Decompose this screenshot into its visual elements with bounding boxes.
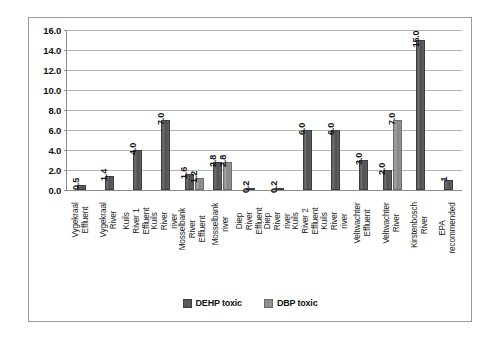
- bar: 2.8: [223, 162, 232, 190]
- bar-group: 1: [435, 30, 463, 190]
- y-axis-tick-label: 2.0: [48, 165, 61, 176]
- y-axis: 0.02.04.06.08.010.012.014.016.0: [29, 30, 64, 190]
- bar: 0.2: [246, 188, 255, 190]
- bar: 15.0: [416, 40, 425, 190]
- bar-value-label: 15.0: [411, 31, 421, 48]
- bar-value-label: 1.4: [99, 169, 109, 181]
- bar-value-label: 0.5: [71, 178, 81, 190]
- y-axis-tick-label: 8.0: [48, 105, 61, 116]
- bar-group: 0.5: [67, 30, 95, 190]
- bar-group: 2.82.8: [208, 30, 236, 190]
- bar-group: 0.2: [237, 30, 265, 190]
- bar: 3.0: [359, 160, 368, 190]
- bar-series-container: 0.51.44.07.01.61.22.82.80.20.26.06.03.02…: [67, 30, 462, 190]
- bar-group: 2.07.0: [378, 30, 406, 190]
- bar-group: 15.0: [406, 30, 434, 190]
- bar-group: 4.0: [124, 30, 152, 190]
- x-axis-tick-label: Mosselbank river: [207, 192, 235, 288]
- x-axis-tick-text: Kuils River river: [320, 207, 350, 235]
- x-axis-tick-label: Veltwachter River: [377, 192, 405, 288]
- x-axis-tick-text: Vygekraal River: [98, 202, 118, 237]
- bar-group: 1.61.2: [180, 30, 208, 190]
- y-axis-tick-label: 14.0: [43, 45, 61, 56]
- plot-area: 0.51.44.07.01.61.22.82.80.20.26.06.03.02…: [66, 30, 462, 190]
- bar: 1: [444, 180, 453, 190]
- x-axis-tick-label: Kuils River river: [321, 192, 349, 288]
- x-axis-tick-label: Kuils River 2 Effluent: [292, 192, 320, 288]
- bar: 7.0: [393, 120, 402, 190]
- bar: 7.0: [161, 120, 170, 190]
- gridline: [67, 190, 462, 191]
- y-axis-tick-label: 16.0: [43, 25, 61, 36]
- legend-swatch: [183, 299, 192, 308]
- x-axis-tick-text: Vygekraal Effluent: [70, 202, 90, 237]
- bar-group: 0.2: [265, 30, 293, 190]
- x-axis-tick-label: Kuils River river: [151, 192, 179, 288]
- x-axis-tick-label: Kuils River 1 Effluent: [123, 192, 151, 288]
- bar-value-label: 6.0: [297, 123, 307, 135]
- bar: 0.2: [275, 188, 284, 190]
- x-axis-tick-text: EPA recommended: [438, 202, 458, 253]
- bar-value-label: 1.2: [189, 171, 199, 183]
- y-axis-tick-label: 6.0: [48, 125, 61, 136]
- bar-value-label: 2.8: [208, 155, 218, 167]
- y-axis-tick-label: 10.0: [43, 85, 61, 96]
- x-axis-tick-text: Diep River Effluent: [235, 207, 265, 235]
- x-axis-tick-label: Vygekraal Effluent: [66, 192, 94, 288]
- bar: 6.0: [303, 130, 312, 190]
- bar-group: 6.0: [322, 30, 350, 190]
- x-axis-tick-label: Kirstenbosch River: [405, 192, 433, 288]
- x-axis-tick-label: Diep River river: [264, 192, 292, 288]
- bar: 1.2: [195, 178, 204, 190]
- x-axis-labels: Vygekraal EffluentVygekraal RiverKuils R…: [66, 192, 462, 288]
- chart-legend: DEHP toxicDBP toxic: [29, 298, 471, 308]
- bar-value-label: 1: [439, 177, 449, 182]
- x-axis-tick-label: Diep River Effluent: [236, 192, 264, 288]
- x-axis-tick-text: Kuils River 1 Effluent: [122, 207, 152, 235]
- bar: 6.0: [331, 130, 340, 190]
- bar: 2.0: [383, 170, 392, 190]
- bar: 1.4: [105, 176, 114, 190]
- bar-value-label: 6.0: [326, 123, 336, 135]
- bar-value-label: 7.0: [156, 113, 166, 125]
- chart-figure: 0.02.04.06.08.010.012.014.016.0 0.51.44.…: [28, 17, 472, 322]
- x-axis-tick-text: Veltwachter Effluent: [353, 202, 373, 243]
- y-axis-tick-label: 0.0: [48, 185, 61, 196]
- bar-value-label: 2.0: [377, 163, 387, 175]
- bar-value-label: 2.8: [218, 155, 228, 167]
- legend-item: DBP toxic: [264, 298, 318, 308]
- bar-value-label: 1.6: [179, 167, 189, 179]
- x-axis-tick-text: Veltwachter River: [381, 202, 401, 243]
- bar: 0.5: [77, 185, 86, 190]
- x-axis-tick-text: Mosselbank river: [212, 202, 232, 245]
- bar-value-label: 3.0: [354, 153, 364, 165]
- legend-label: DBP toxic: [277, 298, 318, 308]
- y-axis-tick-label: 4.0: [48, 145, 61, 156]
- x-axis-tick-label: Mosselbank River Effluent: [179, 192, 207, 288]
- bar-group: 1.4: [95, 30, 123, 190]
- x-axis-tick-text: Kirstenbosch River: [410, 202, 430, 248]
- legend-item: DEHP toxic: [183, 298, 242, 308]
- x-axis-tick-text: Mosselbank River Effluent: [178, 207, 208, 250]
- x-axis-tick-label: EPA recommended: [434, 192, 462, 288]
- x-axis-tick-label: Veltwachter Effluent: [349, 192, 377, 288]
- bar: 4.0: [133, 150, 142, 190]
- bar-group: 3.0: [350, 30, 378, 190]
- bar-value-label: 7.0: [387, 113, 397, 125]
- x-axis-tick-text: Diep River river: [263, 207, 293, 235]
- y-axis-tick-label: 12.0: [43, 65, 61, 76]
- legend-label: DEHP toxic: [196, 298, 242, 308]
- bar-group: 7.0: [152, 30, 180, 190]
- legend-swatch: [264, 299, 273, 308]
- bar-value-label: 4.0: [128, 143, 138, 155]
- x-axis-tick-text: Kuils River 2 Effluent: [291, 207, 321, 235]
- bar-group: 6.0: [293, 30, 321, 190]
- x-axis-tick-label: Vygekraal River: [94, 192, 122, 288]
- x-axis-tick-text: Kuils River river: [150, 207, 180, 235]
